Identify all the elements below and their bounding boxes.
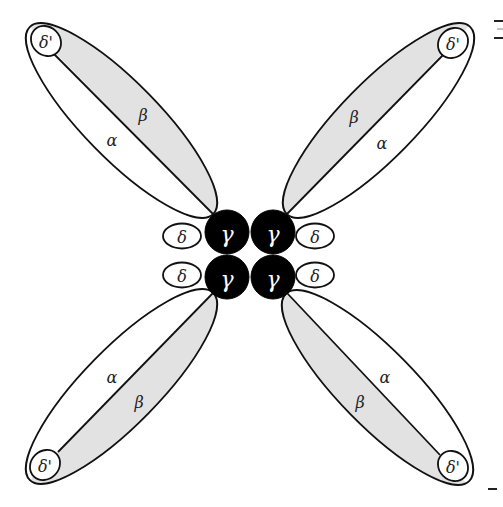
edge-marks bbox=[488, 21, 503, 489]
delta-prime-label: δ' bbox=[446, 458, 460, 477]
delta-prime-label: δ' bbox=[446, 35, 460, 54]
alpha-label: α bbox=[107, 368, 118, 387]
alpha-beta-divider bbox=[52, 52, 213, 214]
gamma-core: γ γ γ γ bbox=[205, 210, 295, 299]
alpha-label: α bbox=[380, 368, 391, 387]
delta-label: δ bbox=[310, 267, 320, 286]
alpha-label: α bbox=[107, 131, 118, 150]
delta-prime-label: δ' bbox=[38, 457, 52, 476]
gamma-label: γ bbox=[220, 222, 234, 247]
delta-label: δ bbox=[310, 228, 320, 247]
beta-label: β bbox=[348, 108, 358, 127]
lobe-top-left: δ' β α bbox=[0, 0, 300, 241]
beta-label: β bbox=[133, 393, 143, 412]
alpha-label: α bbox=[377, 134, 388, 153]
alpha-beta-divider bbox=[287, 54, 444, 214]
gamma-label: γ bbox=[266, 267, 280, 292]
delta-prime-label: δ' bbox=[39, 33, 53, 52]
delta-label: δ bbox=[177, 228, 187, 247]
beta-label: β bbox=[354, 393, 364, 412]
delta-label: δ bbox=[177, 267, 187, 286]
gamma-label: γ bbox=[266, 222, 280, 247]
beta-label: β bbox=[137, 106, 147, 125]
gamma-label: γ bbox=[220, 267, 234, 292]
subunit-diagram: δ' β α δ' β α δ' α β δ' α β bbox=[0, 0, 503, 507]
